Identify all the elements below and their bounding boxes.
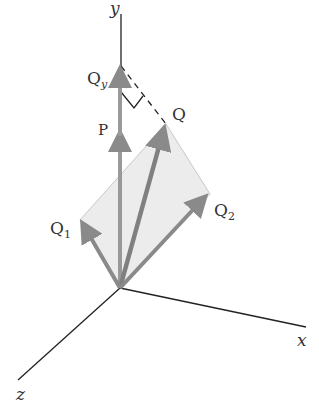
p-label: P — [98, 121, 108, 139]
right-angle-mark — [121, 92, 143, 108]
z-axis — [18, 288, 120, 380]
z-axis-label: z — [16, 384, 25, 404]
vector-diagram: y x z Qy P Q Q1 Q2 — [0, 0, 319, 414]
x-axis — [120, 288, 306, 327]
projection-dashed-line — [121, 66, 166, 124]
qy-label: Qy — [87, 68, 107, 91]
q-label: Q — [172, 104, 186, 124]
y-axis-label: y — [110, 0, 120, 18]
q2-label: Q2 — [214, 200, 235, 223]
q1-label: Q1 — [50, 218, 71, 241]
x-axis-label: x — [297, 330, 307, 350]
diagram-graphics — [0, 0, 319, 414]
